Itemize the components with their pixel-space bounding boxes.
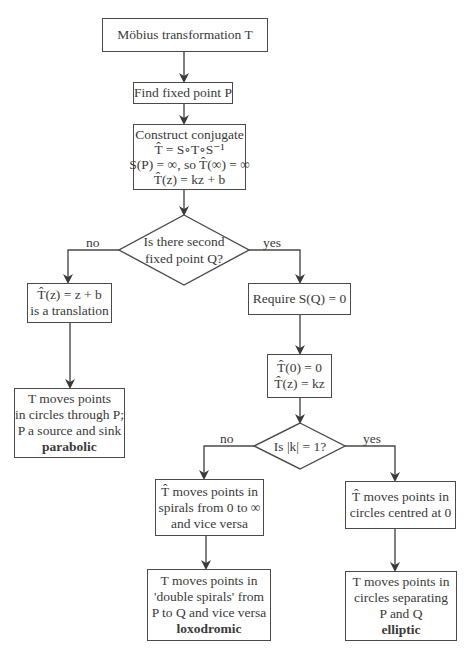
node-find-fixed-point: Find fixed point P xyxy=(133,82,233,104)
connectors xyxy=(0,0,472,649)
node-circles-centred: T̂ moves points in circles centred at 0 xyxy=(345,481,456,529)
node-parabolic: T moves points in circles through P; P a… xyxy=(14,388,125,458)
node-formula: T̂(z) = kz + b xyxy=(154,172,225,187)
classification-label: loxodromic xyxy=(177,621,242,637)
node-text: 'double spirals' from xyxy=(154,589,264,605)
node-text: T̂ moves points in xyxy=(161,484,258,500)
node-kz: T̂(0) = 0 T̂(z) = kz xyxy=(267,354,332,398)
node-formula: T̂(z) = kz xyxy=(274,376,324,392)
node-text: T moves points xyxy=(28,391,111,407)
node-formula: S(P) = ∞, so T̂(∞) = ∞ xyxy=(129,157,250,172)
node-construct-conjugate: Construct conjugate T̂ = S∘T∘S⁻¹ S(P) = … xyxy=(133,124,246,190)
node-text: T̂ moves points in xyxy=(352,489,449,505)
node-formula: T̂(z) = z + b xyxy=(37,287,102,303)
edge-label-yes: yes xyxy=(363,431,381,447)
classification-label: elliptic xyxy=(382,622,421,638)
node-elliptic: T moves points in circles separating P a… xyxy=(345,571,457,641)
decision-second-fixed-point: Is there second fixed point Q? xyxy=(134,232,234,268)
node-loxodromic: T moves points in 'double spirals' from … xyxy=(147,569,271,641)
node-spirals: T̂ moves points in spirals from 0 to ∞ a… xyxy=(155,479,264,536)
node-text: P and Q xyxy=(380,606,423,622)
node-text: is a translation xyxy=(30,303,109,319)
node-formula: T̂(0) = 0 xyxy=(277,360,322,376)
node-text: T moves points in xyxy=(161,573,258,589)
node-text: circles centred at 0 xyxy=(350,505,452,521)
node-text: circles separating xyxy=(354,590,448,606)
decision-k-modulus: Is |k| = 1? xyxy=(262,437,338,455)
edge-label-no: no xyxy=(220,431,234,447)
classification-label: parabolic xyxy=(42,439,97,455)
node-text: and vice versa xyxy=(171,516,248,532)
node-require-sq: Require S(Q) = 0 xyxy=(248,283,351,315)
decision-text: Is |k| = 1? xyxy=(274,438,326,455)
node-text: T moves points in xyxy=(353,574,450,590)
node-translation: T̂(z) = z + b is a translation xyxy=(27,283,112,323)
node-text: P a source and sink xyxy=(18,423,122,439)
node-text: in circles through P; xyxy=(15,407,124,423)
edge-label-no: no xyxy=(86,235,100,251)
node-text: Require S(Q) = 0 xyxy=(253,291,346,307)
node-mobius-transformation: Möbius transformation T xyxy=(102,18,268,52)
edge-label-yes: yes xyxy=(263,235,281,251)
decision-text: fixed point Q? xyxy=(145,250,223,267)
node-formula: T̂ = S∘T∘S⁻¹ xyxy=(154,142,224,157)
node-text: Möbius transformation T xyxy=(117,27,253,43)
node-text: Construct conjugate xyxy=(135,127,243,142)
node-text: Find fixed point P xyxy=(134,85,232,101)
decision-text: Is there second xyxy=(144,233,225,250)
node-text: P to Q and vice versa xyxy=(152,605,267,621)
flowchart: Möbius transformation T Find fixed point… xyxy=(0,0,472,649)
node-text: spirals from 0 to ∞ xyxy=(159,500,261,516)
